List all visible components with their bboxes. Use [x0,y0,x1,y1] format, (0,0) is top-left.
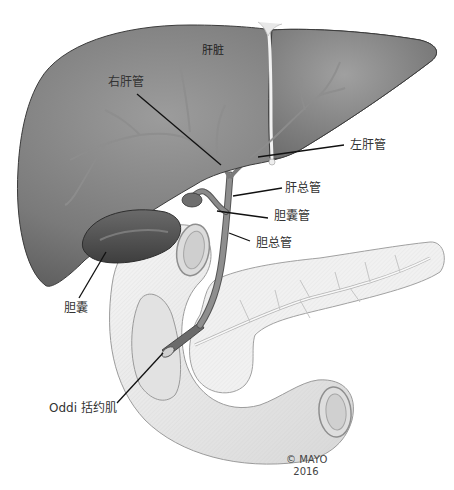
label-cystic-duct: 胆囊管 [274,210,310,222]
label-sphincter-of-oddi: Oddi 括约肌 [49,402,117,414]
label-common-hepatic-duct: 肝总管 [285,182,321,194]
anatomy-illustration [0,0,454,490]
label-gallbladder: 胆囊 [64,302,88,314]
label-liver: 肝脏 [202,45,224,56]
copyright-line-2: 2016 [286,466,326,478]
label-right-hepatic-duct: 右肝管 [108,76,144,88]
leader-common-bile-duct [229,233,250,241]
leader-common-hepatic-duct [233,188,282,196]
copyright-line-1: © MAYO [286,454,326,466]
copyright-notice: © MAYO 2016 [286,454,326,477]
pancreas [190,242,445,393]
label-common-bile-duct: 胆总管 [256,237,292,249]
anatomy-diagram: 肝脏 右肝管 左肝管 肝总管 胆囊管 胆总管 胆囊 Oddi 括约肌 © MAY… [0,0,454,490]
label-left-hepatic-duct: 左肝管 [350,139,386,151]
